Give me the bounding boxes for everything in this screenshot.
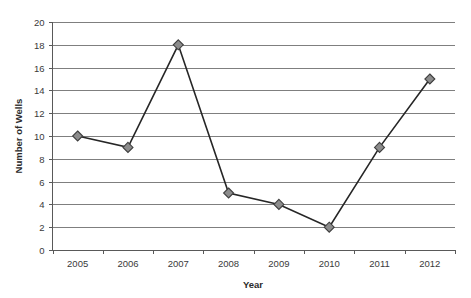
chart-background (0, 0, 471, 298)
x-tick-label-2005: 2005 (67, 258, 88, 269)
y-tick-label-6: 6 (39, 177, 44, 188)
x-tick-label-2010: 2010 (319, 258, 340, 269)
y-tick-label-10: 10 (34, 131, 45, 142)
x-axis-title: Year (243, 279, 263, 290)
x-tick-label-2007: 2007 (168, 258, 189, 269)
y-axis-title: Number of Wells (13, 99, 24, 174)
y-tick-label-4: 4 (39, 199, 44, 210)
x-tick-label-2011: 2011 (369, 258, 389, 269)
y-tick-label-2: 2 (39, 222, 44, 233)
x-tick-label-2006: 2006 (117, 258, 138, 269)
y-tick-label-8: 8 (39, 154, 44, 165)
y-tick-label-18: 18 (34, 40, 45, 51)
y-tick-label-14: 14 (34, 85, 45, 96)
x-tick-label-2009: 2009 (268, 258, 289, 269)
x-tick-label-2008: 2008 (218, 258, 239, 269)
y-tick-label-12: 12 (34, 108, 45, 119)
y-tick-label-16: 16 (34, 63, 45, 74)
x-tick-label-2012: 2012 (419, 258, 440, 269)
y-tick-label-20: 20 (34, 17, 45, 28)
chart-canvas: 02468101214161820 2005200620072008200920… (0, 0, 471, 298)
line-chart: 02468101214161820 2005200620072008200920… (0, 0, 471, 298)
y-tick-label-0: 0 (39, 245, 44, 256)
